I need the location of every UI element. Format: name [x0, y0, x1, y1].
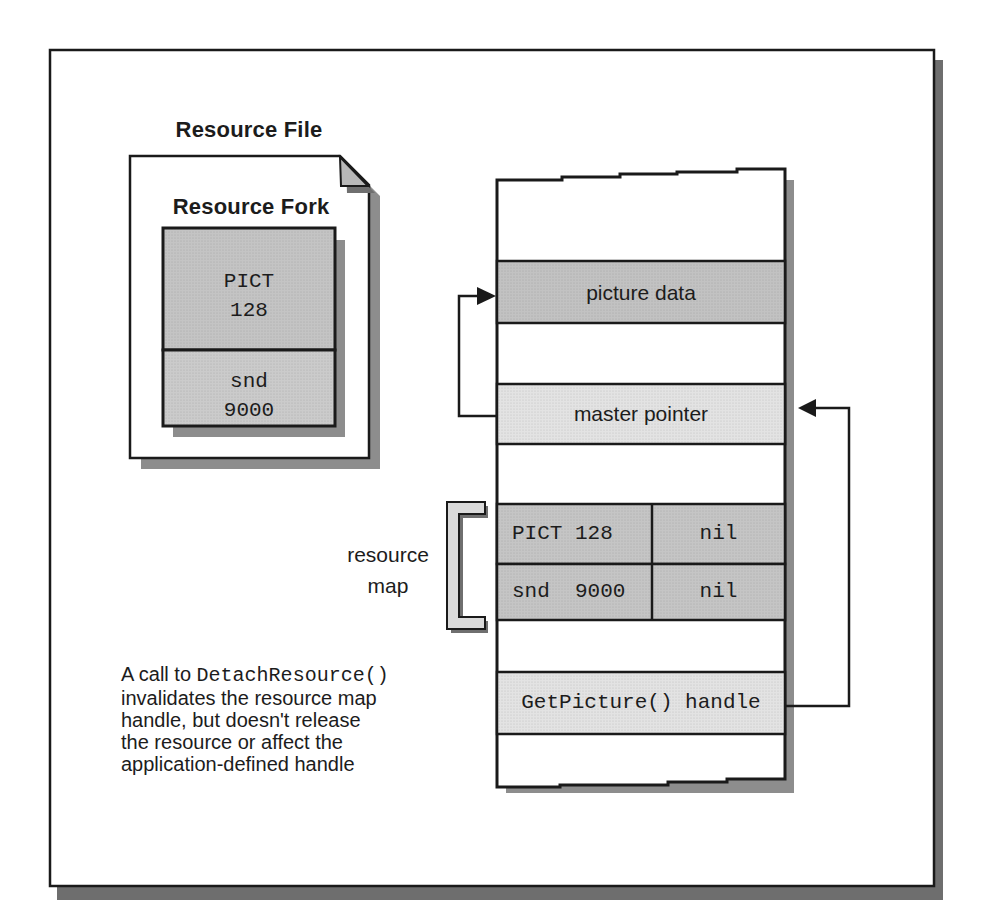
figure-canvas: Resource File Resource Fork PICT 128 snd… [0, 0, 983, 907]
map-row-value: nil [652, 579, 785, 605]
picture-data-label: picture data [497, 281, 785, 305]
caption-body: invalidates the resource map handle, but… [121, 687, 451, 775]
resource-map-label: resource map [328, 539, 448, 601]
map-row-name: PICT 128 [512, 521, 613, 547]
resource-fork-title: Resource Fork [133, 194, 369, 220]
caption-text: A call to DetachResource() invalidates t… [121, 663, 451, 775]
caption-code: DetachResource() [197, 664, 389, 687]
snd-resource-text: snd 9000 [163, 367, 335, 425]
resource-file-title: Resource File [129, 117, 369, 143]
handle-label: GetPicture() handle [497, 690, 785, 716]
map-row-value: nil [652, 521, 785, 547]
master-pointer-label: master pointer [497, 402, 785, 426]
caption-prefix: A call to [121, 663, 197, 685]
pict-resource-text: PICT 128 [163, 267, 335, 325]
caption-line-1: A call to DetachResource() [121, 663, 451, 687]
map-row-name: snd 9000 [512, 579, 625, 605]
